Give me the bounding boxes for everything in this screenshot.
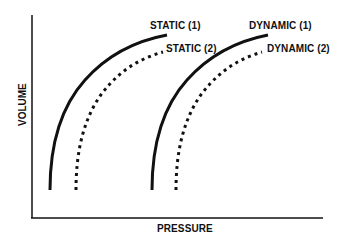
label-dynamic-2: DYNAMIC (2) [267, 43, 330, 54]
label-dynamic-1: DYNAMIC (1) [249, 20, 312, 31]
pressure-volume-diagram [0, 0, 349, 242]
curve-dynamic-2 [176, 52, 262, 190]
x-axis-label: PRESSURE [157, 223, 213, 234]
curve-dynamic-1 [152, 35, 268, 190]
y-axis-label: VOLUME [17, 83, 28, 126]
label-static-1: STATIC (1) [150, 20, 201, 31]
curve-static-2 [76, 52, 163, 190]
label-static-2: STATIC (2) [166, 43, 217, 54]
curve-static-1 [50, 35, 167, 190]
